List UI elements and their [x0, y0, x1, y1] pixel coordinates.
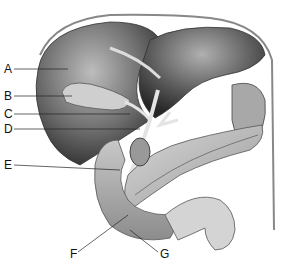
label-f: F [70, 248, 77, 260]
label-c: C [4, 108, 13, 120]
label-e: E [4, 159, 12, 171]
duodenum-opening [130, 138, 150, 166]
label-g: G [160, 248, 169, 260]
jejunum [165, 197, 235, 250]
label-d: D [4, 123, 13, 135]
label-b: B [4, 90, 12, 102]
label-a: A [4, 63, 12, 75]
hepatic-duct [160, 112, 178, 125]
anatomy-illustration [0, 0, 289, 267]
